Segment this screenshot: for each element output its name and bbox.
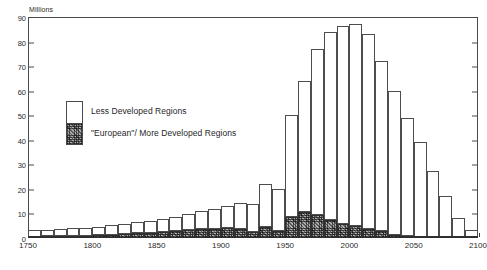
x-axis-tick-label: 2100 <box>469 241 487 250</box>
bar-segment-less-developed <box>362 34 375 229</box>
x-axis-tick-label: 1800 <box>83 241 101 250</box>
bar-group <box>337 17 350 238</box>
bar-segment-more-developed <box>259 227 272 238</box>
bar-segment-less-developed <box>285 115 298 217</box>
bar-group <box>388 17 401 238</box>
bar-segment-more-developed <box>182 230 195 238</box>
legend-swatch-stack <box>66 101 83 145</box>
bar-segment-less-developed <box>92 227 105 235</box>
legend-label-less-developed: Less Developed Regions <box>91 106 187 116</box>
chart-legend: Less Developed Regions "European"/ More … <box>66 101 276 145</box>
legend-label-more-developed: "European"/ More Developed Regions <box>91 128 236 138</box>
bar-segment-more-developed <box>414 236 427 238</box>
bar-segment-more-developed <box>105 235 118 238</box>
bar-segment-more-developed <box>67 236 80 238</box>
bar-segment-less-developed <box>259 184 272 227</box>
y-axis-tick-label: 10 <box>18 210 26 219</box>
bar-segment-more-developed <box>195 229 208 238</box>
bar-segment-more-developed <box>298 212 311 238</box>
y-axis-tick-label: 40 <box>18 136 26 145</box>
bar-group <box>311 17 324 238</box>
bar-segment-more-developed <box>221 228 234 238</box>
bar-segment-less-developed <box>337 26 350 225</box>
bar-segment-more-developed <box>131 233 144 238</box>
bar-segment-less-developed <box>311 49 324 215</box>
bar-segment-less-developed <box>272 189 285 231</box>
bar-segment-more-developed <box>452 236 465 238</box>
legend-swatch-more-developed <box>67 123 82 144</box>
bar-segment-more-developed <box>208 229 221 238</box>
y-axis-tick-label: 90 <box>18 14 26 23</box>
bar-group <box>298 17 311 238</box>
x-axis-tick-mark <box>479 233 480 237</box>
bar-segment-less-developed <box>349 24 362 226</box>
bar-segment-less-developed <box>247 204 260 232</box>
bar-group <box>28 17 41 238</box>
bar-segment-less-developed <box>452 218 465 238</box>
bar-segment-less-developed <box>182 214 195 230</box>
bar-segment-more-developed <box>41 236 54 238</box>
bar-segment-more-developed <box>324 220 337 238</box>
bar-segment-more-developed <box>427 236 440 238</box>
bar-segment-less-developed <box>105 225 118 234</box>
bar-group <box>427 17 440 238</box>
bar-group <box>54 17 67 238</box>
bar-segment-less-developed <box>388 91 401 235</box>
bar-segment-more-developed <box>349 226 362 238</box>
y-axis-tick-label: 50 <box>18 112 26 121</box>
bar-segment-more-developed <box>388 235 401 238</box>
bar-segment-less-developed <box>131 222 144 233</box>
bar-segment-less-developed <box>157 219 170 232</box>
x-axis-tick-label: 2000 <box>341 241 359 250</box>
x-axis-tick-label: 2050 <box>405 241 423 250</box>
x-axis-tick-label: 1950 <box>276 241 294 250</box>
bar-segment-less-developed <box>324 32 337 220</box>
bar-group <box>362 17 375 238</box>
y-axis-unit-label: Millions <box>29 6 53 13</box>
bar-group <box>439 17 452 238</box>
bar-group <box>465 17 478 238</box>
bar-segment-less-developed <box>118 224 131 234</box>
bar-segment-more-developed <box>157 232 170 238</box>
bar-segment-more-developed <box>272 231 285 238</box>
bar-group <box>375 17 388 238</box>
bar-segment-more-developed <box>401 236 414 238</box>
bar-segment-more-developed <box>28 236 41 238</box>
y-axis-tick-label: 60 <box>18 87 26 96</box>
y-axis-tick-label: 20 <box>18 185 26 194</box>
bar-segment-less-developed <box>414 142 427 237</box>
bar-segment-less-developed <box>79 228 92 236</box>
y-axis-tick-label: 30 <box>18 161 26 170</box>
bar-segment-more-developed <box>439 236 452 238</box>
bar-group <box>414 17 427 238</box>
bar-segment-more-developed <box>54 236 67 238</box>
bar-segment-less-developed <box>144 221 157 233</box>
bar-segment-more-developed <box>285 217 298 238</box>
bar-segment-less-developed <box>67 228 80 235</box>
bar-segment-less-developed <box>208 209 221 229</box>
x-axis-tick-label: 1900 <box>212 241 230 250</box>
bar-segment-more-developed <box>169 231 182 238</box>
bar-segment-less-developed <box>375 61 388 230</box>
bar-segment-more-developed <box>375 231 388 238</box>
bar-group <box>401 17 414 238</box>
legend-swatch-less-developed <box>67 102 82 123</box>
bar-segment-less-developed <box>234 203 247 229</box>
bar-segment-less-developed <box>401 118 414 236</box>
bar-group <box>349 17 362 238</box>
bar-segment-more-developed <box>311 215 324 238</box>
bar-group <box>324 17 337 238</box>
bar-group <box>285 17 298 238</box>
bar-segment-more-developed <box>234 229 247 238</box>
bar-segment-more-developed <box>79 236 92 238</box>
bar-segment-more-developed <box>465 236 478 238</box>
x-axis-tick-label: 1750 <box>19 241 37 250</box>
bar-segment-more-developed <box>144 233 157 238</box>
bar-segment-less-developed <box>427 171 440 237</box>
bar-segment-less-developed <box>221 206 234 228</box>
bar-segment-less-developed <box>195 211 208 229</box>
bar-segment-more-developed <box>362 229 375 238</box>
bar-segment-more-developed <box>247 232 260 238</box>
bar-segment-less-developed <box>169 217 182 231</box>
